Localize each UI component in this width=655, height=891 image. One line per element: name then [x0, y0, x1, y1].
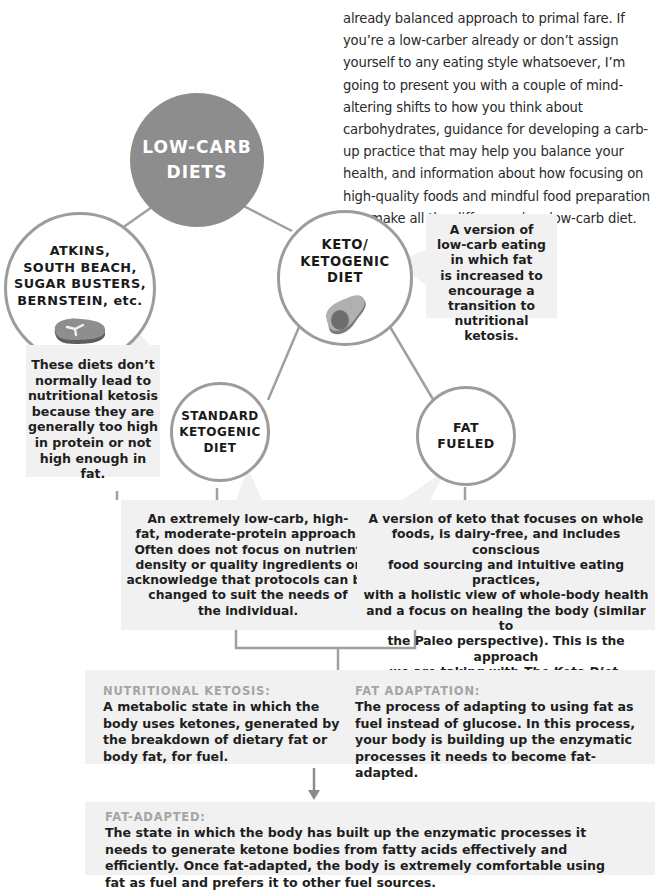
definition-body: A metabolic state in which the body uses… [103, 699, 353, 765]
keto-node: KETO/ KETOGENIC DIET [277, 210, 413, 346]
definition-body: The state in which the body has built up… [105, 825, 625, 891]
fat-adapted-definition: FAT-ADAPTED: The state in which the body… [85, 802, 655, 875]
desc-line: These diets don’t [26, 357, 160, 373]
atkins-description: These diets don’t normally lead to nutri… [26, 345, 160, 477]
desc-line: fat, moderate-protein approach. [121, 527, 375, 542]
fat-adaptation-definition: FAT ADAPTATION: The process of adapting … [355, 684, 645, 782]
atkins-label-line: SOUTH BEACH, [23, 260, 137, 277]
keto-description: A version of low-carb eating in which fa… [426, 214, 557, 318]
standard-description: An extremely low-carb, high- fat, modera… [121, 500, 375, 630]
desc-line: An extremely low-carb, high- [121, 512, 375, 527]
keto-label-line: KETOGENIC [300, 254, 389, 271]
desc-line: nutritional ketosis [26, 388, 160, 404]
definitions-row: NUTRITIONAL KETOSIS: A metabolic state i… [85, 670, 655, 764]
desc-line: in which fat [426, 252, 557, 267]
desc-line: foods, is dairy-free, and includes consc… [357, 527, 655, 558]
desc-line: the Paleo perspective). This is the appr… [357, 634, 655, 665]
keto-label-line: DIET [327, 270, 363, 287]
standard-label-line: STANDARD [181, 408, 259, 424]
desc-line: changed to suit the needs of [121, 588, 375, 603]
desc-line: transition to [426, 298, 557, 313]
desc-line: because they are [26, 404, 160, 420]
fat-fueled-node: FAT FUELED [416, 386, 516, 486]
atkins-label-line: BERNSTEIN, etc. [17, 293, 142, 310]
desc-line: and a focus on healing the body (similar… [357, 604, 655, 635]
nutritional-ketosis-definition: NUTRITIONAL KETOSIS: A metabolic state i… [103, 684, 353, 765]
keto-label-line: KETO/ [322, 237, 369, 254]
desc-line: the individual. [121, 604, 375, 619]
desc-line: is increased to [426, 268, 557, 283]
down-arrow-icon [308, 790, 320, 800]
desc-line: density or quality ingredients or [121, 558, 375, 573]
steak-icon [51, 317, 109, 347]
standard-ketogenic-node: STANDARD KETOGENIC DIET [170, 382, 270, 482]
desc-line: A version of keto that focuses on whole [357, 512, 655, 527]
atkins-label-line: SUGAR BUSTERS, [14, 276, 146, 293]
fatfueled-label-line: FUELED [437, 436, 495, 452]
definition-title: FAT-ADAPTED: [105, 810, 635, 824]
avocado-icon [322, 293, 368, 337]
desc-line: acknowledge that protocols can be [121, 573, 375, 588]
desc-line: high enough in fat. [26, 451, 160, 482]
atkins-label-line: ATKINS, [50, 243, 111, 260]
desc-line: nutritional ketosis. [426, 313, 557, 343]
desc-line: low-carb eating [426, 237, 557, 252]
desc-line: Often does not focus on nutrient [121, 543, 375, 558]
desc-line: encourage a [426, 283, 557, 298]
standard-label-line: KETOGENIC [179, 424, 261, 440]
intro-paragraph: already balanced approach to primal fare… [343, 8, 655, 230]
desc-line: generally too high [26, 419, 160, 435]
desc-line: food sourcing and intuitive eating pract… [357, 558, 655, 589]
low-carb-diets-node: LOW-CARB DIETS [130, 93, 264, 227]
desc-line: A version of [426, 222, 557, 237]
standard-label-line: DIET [204, 440, 237, 456]
root-label-line2: DIETS [167, 160, 228, 185]
atkins-node: ATKINS, SOUTH BEACH, SUGAR BUSTERS, BERN… [4, 212, 156, 364]
desc-line: normally lead to [26, 373, 160, 389]
fat-fueled-description: A version of keto that focuses on whole … [357, 500, 655, 630]
fatfueled-label-line: FAT [453, 420, 479, 436]
definition-body: The process of adapting to using fat as … [355, 699, 645, 782]
definition-title: FAT ADAPTATION: [355, 684, 645, 698]
desc-line: in protein or not [26, 435, 160, 451]
desc-line: with a holistic view of whole-body healt… [357, 588, 655, 603]
definition-title: NUTRITIONAL KETOSIS: [103, 684, 353, 698]
root-label-line1: LOW-CARB [142, 135, 251, 160]
